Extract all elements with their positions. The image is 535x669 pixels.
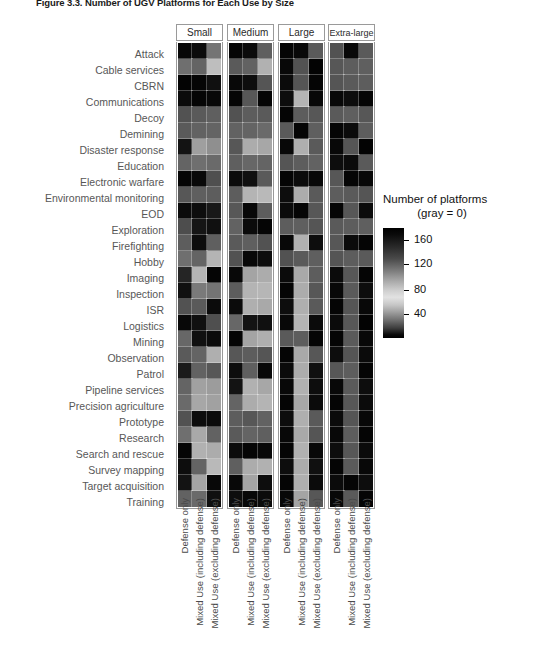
heatmap-cell[interactable]	[330, 155, 344, 171]
heatmap-cell[interactable]	[243, 59, 257, 75]
heatmap-cell[interactable]	[309, 107, 323, 123]
heatmap-cell[interactable]	[192, 187, 206, 203]
heatmap-cell[interactable]	[192, 203, 206, 219]
heatmap-cell[interactable]	[309, 139, 323, 155]
heatmap-cell[interactable]	[359, 299, 373, 315]
heatmap-cell[interactable]	[243, 459, 257, 475]
heatmap-cell[interactable]	[344, 187, 358, 203]
heatmap-cell[interactable]	[330, 219, 344, 235]
heatmap-cell[interactable]	[359, 411, 373, 427]
heatmap-cell[interactable]	[344, 59, 358, 75]
heatmap-cell[interactable]	[207, 427, 221, 443]
heatmap-cell[interactable]	[229, 123, 243, 139]
heatmap-cell[interactable]	[294, 235, 308, 251]
heatmap-cell[interactable]	[178, 155, 192, 171]
heatmap-cell[interactable]	[359, 283, 373, 299]
heatmap-cell[interactable]	[178, 475, 192, 491]
heatmap-cell[interactable]	[309, 427, 323, 443]
heatmap-cell[interactable]	[178, 363, 192, 379]
heatmap-cell[interactable]	[207, 443, 221, 459]
heatmap-cell[interactable]	[178, 59, 192, 75]
heatmap-cell[interactable]	[330, 443, 344, 459]
heatmap-cell[interactable]	[280, 299, 294, 315]
heatmap-cell[interactable]	[243, 123, 257, 139]
heatmap-cell[interactable]	[207, 251, 221, 267]
heatmap-cell[interactable]	[309, 187, 323, 203]
heatmap-cell[interactable]	[309, 379, 323, 395]
heatmap-cell[interactable]	[309, 171, 323, 187]
heatmap-cell[interactable]	[330, 283, 344, 299]
heatmap-cell[interactable]	[229, 427, 243, 443]
heatmap-cell[interactable]	[229, 91, 243, 107]
heatmap-cell[interactable]	[309, 283, 323, 299]
heatmap-cell[interactable]	[309, 443, 323, 459]
heatmap-cell[interactable]	[192, 315, 206, 331]
heatmap-cell[interactable]	[207, 411, 221, 427]
heatmap-cell[interactable]	[192, 395, 206, 411]
heatmap-cell[interactable]	[243, 139, 257, 155]
heatmap-cell[interactable]	[229, 75, 243, 91]
heatmap-cell[interactable]	[178, 267, 192, 283]
heatmap-cell[interactable]	[294, 43, 308, 59]
heatmap-cell[interactable]	[330, 427, 344, 443]
heatmap-cell[interactable]	[178, 139, 192, 155]
heatmap-cell[interactable]	[229, 107, 243, 123]
heatmap-cell[interactable]	[192, 107, 206, 123]
heatmap-cell[interactable]	[359, 267, 373, 283]
heatmap-cell[interactable]	[178, 459, 192, 475]
heatmap-cell[interactable]	[258, 315, 272, 331]
heatmap-cell[interactable]	[294, 75, 308, 91]
heatmap-cell[interactable]	[207, 379, 221, 395]
heatmap-cell[interactable]	[192, 475, 206, 491]
heatmap-cell[interactable]	[229, 251, 243, 267]
heatmap-cell[interactable]	[229, 475, 243, 491]
heatmap-cell[interactable]	[229, 171, 243, 187]
heatmap-cell[interactable]	[280, 443, 294, 459]
heatmap-cell[interactable]	[344, 75, 358, 91]
heatmap-cell[interactable]	[344, 475, 358, 491]
heatmap-cell[interactable]	[229, 187, 243, 203]
heatmap-cell[interactable]	[359, 219, 373, 235]
heatmap-cell[interactable]	[359, 203, 373, 219]
heatmap-cell[interactable]	[359, 91, 373, 107]
heatmap-cell[interactable]	[344, 443, 358, 459]
heatmap-cell[interactable]	[243, 475, 257, 491]
heatmap-cell[interactable]	[207, 75, 221, 91]
heatmap-cell[interactable]	[243, 43, 257, 59]
heatmap-cell[interactable]	[178, 75, 192, 91]
heatmap-cell[interactable]	[359, 363, 373, 379]
heatmap-cell[interactable]	[330, 395, 344, 411]
heatmap-cell[interactable]	[344, 299, 358, 315]
heatmap-cell[interactable]	[192, 347, 206, 363]
heatmap-cell[interactable]	[243, 235, 257, 251]
heatmap-cell[interactable]	[309, 123, 323, 139]
heatmap-cell[interactable]	[280, 283, 294, 299]
heatmap-cell[interactable]	[178, 251, 192, 267]
heatmap-cell[interactable]	[229, 459, 243, 475]
heatmap-cell[interactable]	[229, 331, 243, 347]
heatmap-cell[interactable]	[344, 235, 358, 251]
heatmap-cell[interactable]	[258, 427, 272, 443]
heatmap-cell[interactable]	[192, 219, 206, 235]
heatmap-cell[interactable]	[344, 315, 358, 331]
heatmap-cell[interactable]	[280, 59, 294, 75]
heatmap-cell[interactable]	[192, 331, 206, 347]
heatmap-cell[interactable]	[280, 363, 294, 379]
heatmap-cell[interactable]	[207, 315, 221, 331]
heatmap-cell[interactable]	[207, 475, 221, 491]
heatmap-cell[interactable]	[178, 395, 192, 411]
heatmap-cell[interactable]	[330, 75, 344, 91]
heatmap-cell[interactable]	[344, 139, 358, 155]
heatmap-cell[interactable]	[178, 91, 192, 107]
heatmap-cell[interactable]	[294, 459, 308, 475]
heatmap-cell[interactable]	[359, 379, 373, 395]
heatmap-cell[interactable]	[280, 411, 294, 427]
heatmap-cell[interactable]	[344, 155, 358, 171]
heatmap-cell[interactable]	[344, 251, 358, 267]
heatmap-cell[interactable]	[330, 475, 344, 491]
heatmap-cell[interactable]	[207, 459, 221, 475]
heatmap-cell[interactable]	[207, 219, 221, 235]
heatmap-cell[interactable]	[258, 459, 272, 475]
heatmap-cell[interactable]	[280, 155, 294, 171]
heatmap-cell[interactable]	[258, 331, 272, 347]
